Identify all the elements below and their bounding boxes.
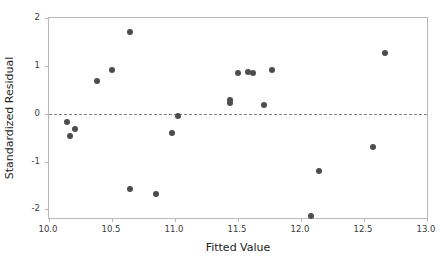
x-axis-tick (301, 218, 302, 222)
y-axis-tick-label: 0 (10, 108, 40, 118)
residual-plot-figure: Standardized Residual 210-1-2 10.010.511… (0, 0, 447, 265)
y-axis-tick (45, 114, 49, 115)
x-axis-tick (112, 218, 113, 222)
x-axis-tick-label: 10.0 (28, 224, 68, 234)
data-point (235, 70, 241, 76)
y-axis-tick-label: 1 (10, 60, 40, 70)
data-point (127, 186, 133, 192)
x-axis-tick-label: 12.5 (343, 224, 383, 234)
data-point (153, 191, 159, 197)
zero-reference-line (49, 114, 427, 115)
y-axis-tick (45, 18, 49, 19)
y-axis-tick-label: 2 (10, 12, 40, 22)
data-point (382, 50, 388, 56)
data-point (370, 144, 376, 150)
plot-frame (48, 17, 428, 219)
y-axis-tick (45, 66, 49, 67)
data-point (169, 130, 175, 136)
x-axis-tick (238, 218, 239, 222)
data-point (109, 67, 115, 73)
x-axis-title: Fitted Value (48, 241, 428, 254)
y-axis-tick (45, 162, 49, 163)
y-axis-tick-label: -1 (10, 156, 40, 166)
data-point (64, 119, 70, 125)
data-point (127, 29, 133, 35)
x-axis-tick (427, 218, 428, 222)
y-axis-tick (45, 209, 49, 210)
x-axis-tick-label: 12.0 (280, 224, 320, 234)
plot-area (49, 18, 427, 218)
data-point (316, 168, 322, 174)
data-point (67, 133, 73, 139)
x-axis-tick-label: 11.0 (154, 224, 194, 234)
data-point (250, 70, 256, 76)
data-point (175, 113, 181, 119)
x-axis-tick-label: 10.5 (91, 224, 131, 234)
x-axis-tick-label: 13.0 (406, 224, 446, 234)
y-axis-title-container: Standardized Residual (0, 17, 18, 219)
data-point (308, 213, 314, 219)
x-axis-tick-label: 11.5 (217, 224, 257, 234)
data-point (72, 126, 78, 132)
data-point (269, 67, 275, 73)
x-axis-tick (175, 218, 176, 222)
data-point (94, 78, 100, 84)
x-axis-tick (364, 218, 365, 222)
x-axis-tick (49, 218, 50, 222)
y-axis-tick-label: -2 (10, 203, 40, 213)
data-point (261, 102, 267, 108)
